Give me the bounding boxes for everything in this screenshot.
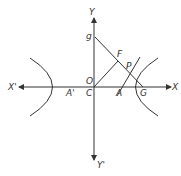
hyperbola-diagram: Y Y' X X' O C A A' P F G g [0,0,181,176]
label-g-lower: g [86,31,92,41]
label-y: Y [89,7,96,17]
label-x-prime: X' [7,82,17,92]
label-y-prime: Y' [97,160,105,170]
label-c: C [86,88,93,98]
label-f: F [117,49,123,59]
label-a: A [115,88,122,98]
label-p: P [126,61,132,71]
normal-line-gG [95,37,143,87]
label-x: X [171,82,179,92]
label-o: O [86,76,93,86]
label-a-prime: A' [65,88,75,98]
line-CF [94,61,118,87]
label-g-upper: G [140,88,147,98]
